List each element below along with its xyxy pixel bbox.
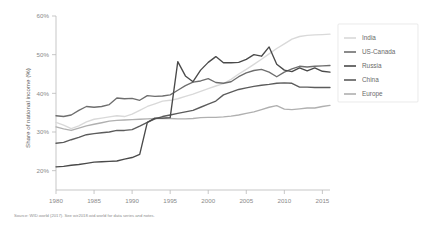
legend-label-india: India [362, 34, 376, 41]
chart-axes [56, 16, 330, 190]
x-tick-label: 1990 [125, 197, 139, 204]
series-line-europe [56, 105, 330, 130]
chart-series-lines [56, 34, 330, 167]
y-axis-title: Share of national income (%) [24, 68, 31, 148]
y-tick-label: 60% [37, 12, 50, 19]
chart-legend: IndiaUS-CanadaRussiaChinaEurope [338, 24, 418, 102]
legend-label-us-canada: US-Canada [362, 48, 396, 55]
y-tick-label: 40% [37, 90, 50, 97]
source-note: Source: WID.world (2017). See wir2018.wi… [14, 213, 155, 218]
legend-label-china: China [362, 76, 379, 83]
x-axis-ticks: 19801985199019952000200520102015 [49, 190, 330, 204]
x-tick-label: 2015 [316, 197, 330, 204]
y-tick-label: 30% [37, 128, 50, 135]
x-tick-label: 1995 [163, 197, 177, 204]
y-tick-label: 50% [37, 51, 50, 58]
y-axis-title-text: Share of national income (%) [24, 68, 31, 148]
y-tick-label: 20% [37, 167, 50, 174]
income-share-line-chart: Share of national income (%) 20%30%40%50… [0, 0, 423, 226]
chart-figure: Share of national income (%) 20%30%40%50… [0, 0, 423, 226]
legend-label-russia: Russia [362, 62, 382, 69]
x-tick-label: 1980 [49, 197, 63, 204]
x-tick-label: 2000 [201, 197, 215, 204]
legend-label-europe: Europe [362, 90, 383, 98]
x-tick-label: 1985 [87, 197, 101, 204]
x-tick-label: 2005 [239, 197, 253, 204]
series-line-china [56, 83, 330, 143]
x-tick-label: 2010 [277, 197, 291, 204]
y-axis-ticks: 20%30%40%50%60% [37, 12, 56, 174]
